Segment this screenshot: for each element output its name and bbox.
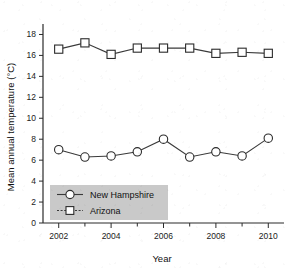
legend-label-arizona: Arizona: [90, 206, 121, 216]
y-tick-label: 2: [31, 197, 36, 207]
y-axis-ticks: 024681012141618: [27, 29, 43, 228]
y-tick-label: 12: [27, 92, 37, 102]
data-point-marker: [186, 44, 194, 52]
legend-entry-new-hampshire: New Hampshire: [57, 190, 154, 200]
legend-label-new-hampshire: New Hampshire: [90, 190, 154, 200]
y-tick-label: 10: [27, 113, 37, 123]
data-point-marker: [159, 44, 167, 52]
data-point-marker: [81, 153, 89, 161]
x-tick-label: 2004: [102, 231, 121, 241]
data-point-marker: [55, 45, 63, 53]
data-point-marker: [55, 145, 63, 153]
data-point-marker: [212, 148, 220, 156]
y-tick-label: 4: [31, 176, 36, 186]
x-tick-label: 2006: [154, 231, 173, 241]
data-point-marker: [107, 50, 115, 58]
series-arizona: [55, 39, 273, 59]
chart-figure: Mean annual temperature (°C) Year 024681…: [0, 0, 294, 268]
data-point-marker: [107, 152, 115, 160]
chart-legend: New Hampshire Arizona: [50, 185, 168, 220]
x-axis-title: Year: [152, 253, 171, 264]
y-tick-label: 14: [27, 71, 37, 81]
data-point-marker: [133, 44, 141, 52]
y-tick-label: 18: [27, 29, 37, 39]
x-tick-label: 2008: [206, 231, 225, 241]
data-point-marker: [264, 134, 272, 142]
y-tick-label: 8: [31, 134, 36, 144]
x-axis-ticks: 20022004200620082010: [49, 223, 278, 241]
data-point-marker: [81, 39, 89, 47]
x-tick-label: 2010: [259, 231, 278, 241]
legend-marker-square: [66, 207, 74, 215]
data-point-marker: [186, 153, 194, 161]
series-new-hampshire: [55, 134, 273, 161]
data-point-marker: [159, 135, 167, 143]
y-tick-label: 16: [27, 50, 37, 60]
line-chart: Mean annual temperature (°C) Year 024681…: [0, 0, 294, 268]
data-point-marker: [133, 148, 141, 156]
y-tick-label: 0: [31, 218, 36, 228]
data-point-marker: [238, 48, 246, 56]
data-point-marker: [264, 49, 272, 57]
y-axis-title: Mean annual temperature (°C): [5, 63, 16, 191]
x-tick-label: 2002: [49, 231, 68, 241]
legend-marker-circle: [66, 190, 74, 198]
data-point-marker: [212, 49, 220, 57]
data-point-marker: [238, 152, 246, 160]
y-tick-label: 6: [31, 155, 36, 165]
